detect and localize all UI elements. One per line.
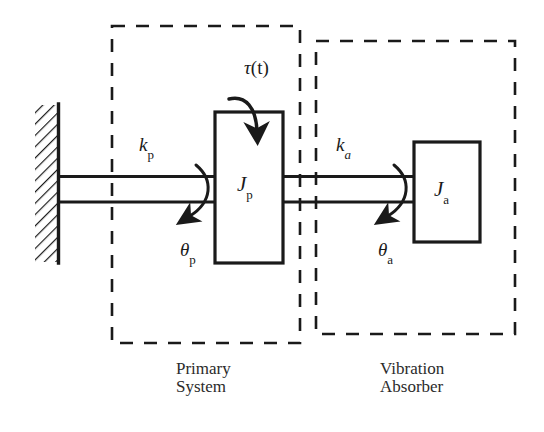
- rotation-angle-absorber-label: θa: [378, 240, 393, 263]
- caption-primary-system-line2: System: [176, 378, 231, 396]
- spring-constant-primary-label: kp: [139, 135, 154, 158]
- inertia-primary-label: Jp: [237, 173, 253, 199]
- rotation-angle-primary-label: θp: [180, 240, 196, 263]
- caption-vibration-absorber: Vibration Absorber: [380, 360, 444, 396]
- torque-label: τ(t): [244, 58, 269, 78]
- shaft-primary: [58, 177, 217, 203]
- wall-hatching: [35, 105, 57, 262]
- caption-primary-system: Primary System: [176, 360, 231, 396]
- caption-vibration-absorber-line2: Absorber: [380, 378, 444, 396]
- schematic-drawing: [0, 0, 544, 432]
- inertia-absorber-label: Ja: [434, 178, 449, 204]
- caption-vibration-absorber-line1: Vibration: [380, 360, 444, 378]
- fixed-wall: [35, 104, 59, 263]
- caption-primary-system-line1: Primary: [176, 360, 231, 378]
- rotation-arrow-absorber: [388, 165, 406, 216]
- spring-constant-absorber-label: ka: [336, 135, 351, 158]
- figure-canvas: τ(t) kp ka Jp Ja θp θa Primary System Vi…: [0, 0, 544, 432]
- rotation-arrow-primary: [190, 165, 208, 216]
